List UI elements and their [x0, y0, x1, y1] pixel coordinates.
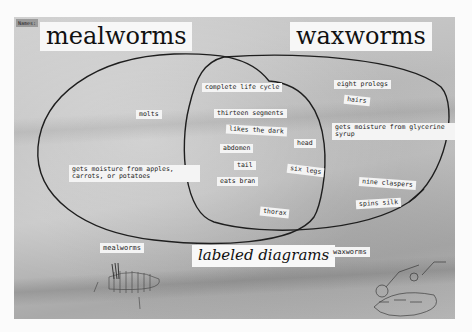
left-only-item: gets moisture from apples, carrots, or p…: [69, 165, 200, 182]
photo-stage: Names: mealworms waxworms: [0, 0, 472, 332]
labeled-diagrams-caption: labeled diagrams: [192, 245, 335, 267]
overlap-item: head: [294, 139, 316, 148]
venn-poster: Names: mealworms waxworms: [14, 17, 455, 319]
left-only-item: molts: [136, 110, 162, 119]
overlap-item: abdomen: [220, 144, 253, 153]
overlap-item: complete life cycle: [202, 83, 282, 92]
right-only-item: gets moisture from glycerine syrup: [332, 123, 455, 140]
right-set-outline: [184, 55, 449, 230]
waxworm-sketch: [374, 262, 446, 316]
waxworms-diagram-label: waxworms: [330, 247, 370, 257]
mealworm-sketch: [94, 263, 159, 309]
mealworms-diagram-label: mealworms: [100, 243, 144, 253]
right-only-item: eight prolegs: [334, 80, 391, 89]
overlap-item: tail: [234, 161, 256, 170]
overlap-item: eats bran: [217, 177, 258, 186]
overlap-item: thirteen segments: [214, 109, 287, 118]
